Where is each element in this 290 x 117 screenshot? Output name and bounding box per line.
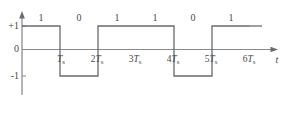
- y-axis: [19, 11, 25, 95]
- bit-label-5: 0: [191, 13, 196, 23]
- x-tick-sub-4: s: [177, 58, 180, 65]
- x-tick-sub-2: s: [101, 58, 104, 65]
- bit-label-1: 1: [39, 13, 44, 23]
- bit-label-6: 1: [229, 13, 234, 23]
- y-axis-arrow-icon: [19, 11, 25, 19]
- waveform-figure: +1 0 -1 1 0 1 1 0 1 Ts 2Ts 3Ts 4Ts 5Ts 6…: [0, 0, 290, 117]
- x-tick-label-6: 6Ts: [243, 55, 256, 65]
- x-tick-label-3: 3Ts: [129, 55, 142, 65]
- x-axis-arrow-icon: [271, 47, 279, 52]
- x-tick-label-1: Ts: [57, 55, 65, 65]
- bit-label-2: 0: [77, 13, 82, 23]
- x-tick-label-4: 4Ts: [167, 55, 180, 65]
- y-label-plus-one: +1: [8, 21, 19, 31]
- x-tick-sub-3: s: [139, 58, 142, 65]
- y-axis-ticks: [22, 26, 26, 76]
- bit-label-3: 1: [115, 13, 120, 23]
- x-tick-sub-5: s: [215, 58, 218, 65]
- y-label-zero: 0: [14, 44, 19, 54]
- x-axis-name: t: [276, 55, 279, 65]
- x-tick-label-2: 2Ts: [91, 55, 104, 65]
- signal-waveform: [22, 26, 262, 76]
- x-tick-label-5: 5Ts: [205, 55, 218, 65]
- bit-label-4: 1: [153, 13, 158, 23]
- x-tick-sub-6: s: [253, 58, 256, 65]
- x-tick-sub-1: s: [62, 58, 65, 65]
- y-label-minus-one: -1: [11, 71, 19, 81]
